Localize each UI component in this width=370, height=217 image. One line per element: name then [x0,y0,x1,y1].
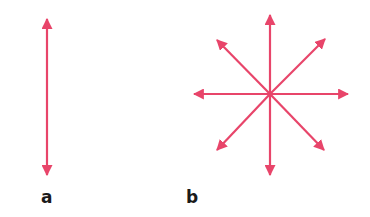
diagram-canvas [0,0,370,217]
panel-b-label: b [186,187,198,207]
arrow-down-left [217,94,270,150]
panel-b-radiating-arrows [194,15,348,175]
arrow-up-left [217,40,270,94]
arrow-down-right [270,94,324,150]
arrow-up-right [270,39,325,94]
panel-a-label: a [41,187,52,207]
